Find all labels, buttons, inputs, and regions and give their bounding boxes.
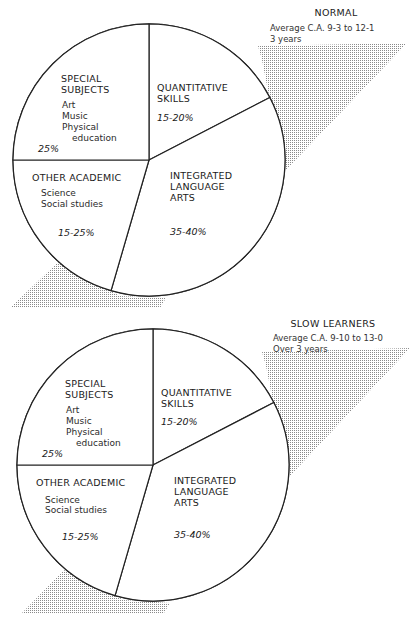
pie-chart-normal: NORMAL Average C.A. 9-3 to 12-1 3 years … xyxy=(10,7,407,308)
slice-detail: Physical xyxy=(62,122,99,132)
slice-label-line: SUBJECTS xyxy=(65,389,113,400)
slice-label-line: SKILLS xyxy=(157,93,190,104)
chart-subtitle-line-1: Average C.A. 9-3 to 12-1 xyxy=(270,23,374,33)
slice-label-line: SUBJECTS xyxy=(61,84,109,95)
slice-detail: education xyxy=(72,133,117,143)
pie-slices xyxy=(13,24,285,296)
slice-detail: Social studies xyxy=(41,199,103,209)
slice-range: 25% xyxy=(42,448,63,459)
slice-detail: Art xyxy=(66,405,80,415)
slice-label-line: ARTS xyxy=(174,497,199,508)
slice-label-line: SPECIAL xyxy=(65,378,106,389)
slice-range: 35-40% xyxy=(174,529,211,540)
slice-label-line: SKILLS xyxy=(161,398,194,409)
pie-chart-figure: NORMAL Average C.A. 9-3 to 12-1 3 years … xyxy=(0,0,419,626)
slice-label-line: INTEGRATED xyxy=(174,475,236,486)
slice-detail: Music xyxy=(66,416,92,426)
slice-label-line: INTEGRATED xyxy=(170,170,232,181)
slice-range: 25% xyxy=(38,143,59,154)
slice-detail: Science xyxy=(45,495,80,505)
slice-range: 35-40% xyxy=(170,226,207,237)
slice-detail: Physical xyxy=(66,427,103,437)
slice-label-line: ARTS xyxy=(170,192,195,203)
chart-subtitle-line-2: Over 3 years xyxy=(273,344,328,354)
slice-label-line: QUANTITATIVE xyxy=(161,387,232,398)
slice-range: 15-20% xyxy=(161,416,198,427)
slice-label-line: OTHER ACADEMIC xyxy=(36,477,125,488)
slice-detail: education xyxy=(76,438,121,448)
slice-range: 15-20% xyxy=(157,112,194,123)
chart-subtitle-line-2: 3 years xyxy=(270,34,302,44)
slice-range: 15-25% xyxy=(62,531,99,542)
slice-detail: Art xyxy=(62,100,76,110)
slice-label-line: LANGUAGE xyxy=(170,181,225,192)
slice-detail: Music xyxy=(62,111,88,121)
slice-label-line: SPECIAL xyxy=(61,73,102,84)
slice-label-line: LANGUAGE xyxy=(174,486,229,497)
chart-title: SLOW LEARNERS xyxy=(291,318,376,329)
chart-title: NORMAL xyxy=(315,7,358,18)
chart-subtitle-line-1: Average C.A. 9-10 to 13-0 xyxy=(273,333,383,343)
slice-label-line: QUANTITATIVE xyxy=(157,82,228,93)
slice-label-line: OTHER ACADEMIC xyxy=(32,172,121,183)
slice-detail: Social studies xyxy=(45,505,107,515)
pie-chart-slow-learners: SLOW LEARNERS Average C.A. 9-10 to 13-0 … xyxy=(17,318,410,613)
slice-range: 15-25% xyxy=(58,227,95,238)
slice-detail: Science xyxy=(41,188,76,198)
pie-slices xyxy=(17,329,289,601)
